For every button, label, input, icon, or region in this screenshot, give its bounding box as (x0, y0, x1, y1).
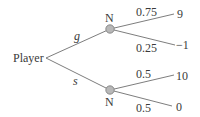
chance-node-upper-label: N (105, 12, 114, 24)
payoff-s-high: 10 (176, 70, 188, 82)
chance-node-lower-label: N (105, 96, 114, 108)
prob-s-low: 0.5 (136, 102, 151, 114)
prob-g-high: 0.75 (136, 6, 157, 18)
action-s-label: s (73, 75, 78, 87)
edge-s (46, 58, 110, 90)
prob-g-low: 0.25 (136, 42, 157, 54)
payoff-g-high: 9 (177, 8, 183, 20)
action-g-label: g (74, 30, 80, 42)
payoff-g-low: −1 (176, 39, 189, 51)
payoff-s-low: 0 (176, 101, 182, 113)
player-label: Player (13, 52, 44, 64)
chance-node-upper (106, 25, 114, 33)
prob-s-high: 0.5 (136, 68, 151, 80)
chance-node-lower (106, 86, 114, 94)
